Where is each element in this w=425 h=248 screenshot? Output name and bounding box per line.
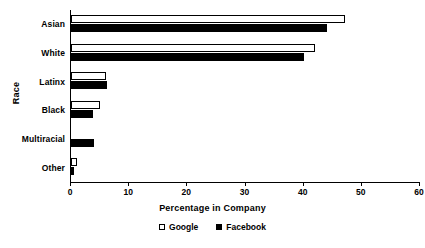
x-tick-label: 60	[414, 187, 423, 197]
category-row-multiracial: Multiracial	[70, 125, 419, 154]
x-tick-label: 40	[298, 187, 307, 197]
x-tick	[245, 182, 246, 186]
bar-facebook-black	[71, 110, 93, 118]
bar-google-black	[71, 101, 100, 109]
legend-label: Google	[169, 222, 198, 232]
bar-chart: Race Asian White Latinx Black Multiracia…	[0, 0, 425, 248]
category-row-black: Black	[70, 96, 419, 125]
x-tick-label: 20	[182, 187, 191, 197]
x-tick	[70, 182, 71, 186]
x-axis-title: Percentage in Company	[0, 203, 425, 213]
x-tick-label: 10	[123, 187, 132, 197]
legend-label: Facebook	[226, 222, 266, 232]
category-label: Asian	[41, 19, 65, 29]
bar-facebook-white	[71, 53, 304, 61]
x-tick	[303, 182, 304, 186]
x-tick	[419, 182, 420, 186]
bar-google-other	[71, 158, 77, 166]
bar-facebook-multiracial	[71, 139, 94, 147]
bar-google-white	[71, 44, 315, 52]
x-tick-label: 0	[68, 187, 73, 197]
bar-facebook-other	[71, 167, 74, 175]
x-tick-label: 30	[240, 187, 249, 197]
filled-square-marker-icon	[216, 224, 222, 230]
x-tick	[361, 182, 362, 186]
chart-legend: Google Facebook	[0, 222, 425, 232]
bar-google-asian	[71, 15, 345, 23]
bar-google-latinx	[71, 72, 106, 80]
category-label: White	[41, 48, 65, 58]
category-label: Other	[42, 163, 65, 173]
category-label: Latinx	[39, 77, 65, 87]
category-row-white: White	[70, 39, 419, 68]
x-tick	[186, 182, 187, 186]
category-label: Black	[42, 105, 65, 115]
category-label: Multiracial	[22, 134, 65, 144]
category-row-other: Other	[70, 153, 419, 182]
x-tick-label: 50	[356, 187, 365, 197]
plot-area: Asian White Latinx Black Multiracial Oth…	[70, 10, 419, 182]
bar-facebook-asian	[71, 24, 327, 32]
legend-item-google: Google	[159, 222, 198, 232]
bar-facebook-latinx	[71, 81, 107, 89]
legend-item-facebook: Facebook	[216, 222, 266, 232]
category-row-asian: Asian	[70, 10, 419, 39]
y-axis-title: Race	[11, 53, 21, 133]
category-row-latinx: Latinx	[70, 67, 419, 96]
open-square-marker-icon	[159, 224, 165, 230]
x-tick	[128, 182, 129, 186]
